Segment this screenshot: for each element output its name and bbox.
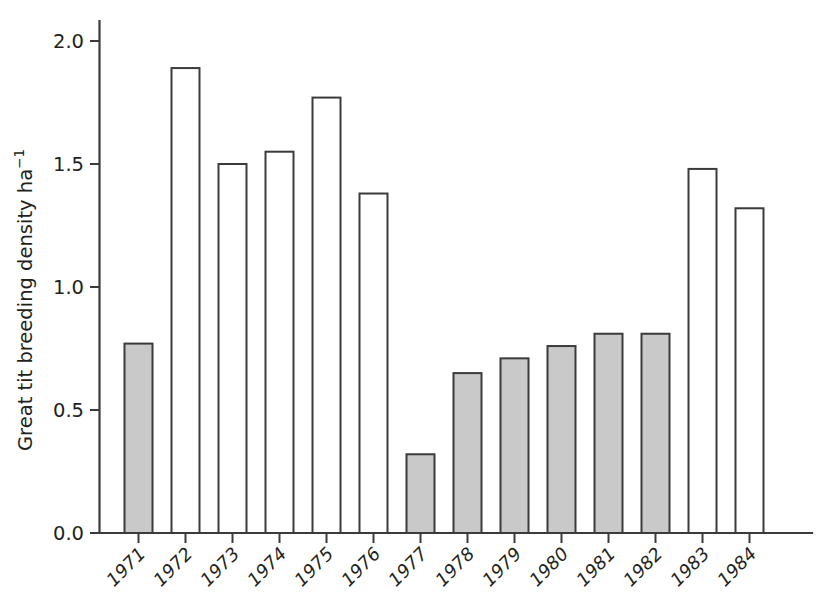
x-tick-label-1972: 1972 (149, 543, 196, 590)
bars-layer (125, 68, 764, 533)
x-tick-label-1974: 1974 (243, 543, 290, 590)
y-tick-label-3: 1.5 (53, 153, 84, 176)
x-tick-label-1976: 1976 (337, 543, 384, 590)
x-tick-label-1971: 1971 (102, 543, 149, 590)
y-tick-0: 0.0 (53, 522, 100, 545)
bar-chart: Great tit breeding density ha−1 0.0 0.5 … (0, 0, 829, 608)
x-tick-label-1981: 1981 (572, 543, 619, 590)
x-axis-ticks: 1971197219731974197519761977197819791980… (102, 533, 760, 590)
x-tick-label-1984: 1984 (713, 543, 760, 590)
y-axis-title: Great tit breeding density ha−1 (11, 149, 37, 451)
y-tick-label-4: 2.0 (53, 30, 84, 53)
y-tick-4: 2.0 (53, 30, 100, 53)
x-tick-label-1979: 1979 (478, 543, 525, 590)
bar-1971 (125, 344, 153, 533)
bar-1983 (689, 169, 717, 533)
x-tick-label-1977: 1977 (384, 543, 432, 591)
y-axis-title-exponent: −1 (11, 149, 27, 169)
bar-1981 (595, 334, 623, 533)
y-tick-label-2: 1.0 (53, 276, 84, 299)
bar-1977 (407, 454, 435, 533)
bar-1978 (454, 373, 482, 533)
x-tick-label-1975: 1975 (290, 543, 337, 590)
svg-text:Great tit breeding density ha−: Great tit breeding density ha−1 (11, 149, 37, 451)
y-tick-3: 1.5 (53, 153, 100, 176)
x-tick-label-1978: 1978 (431, 543, 478, 590)
bar-1972 (172, 68, 200, 533)
y-tick-label-0: 0.0 (53, 522, 84, 545)
bar-1976 (360, 194, 388, 533)
bar-1980 (548, 346, 576, 533)
y-tick-label-1: 0.5 (53, 399, 84, 422)
bar-1974 (266, 152, 294, 533)
bar-1975 (313, 98, 341, 533)
x-tick-label-1973: 1973 (196, 543, 243, 590)
chart-container: Great tit breeding density ha−1 0.0 0.5 … (0, 0, 829, 608)
bar-1973 (219, 164, 247, 533)
y-axis-title-text: Great tit breeding density ha (14, 169, 37, 451)
bar-1984 (736, 208, 764, 533)
x-tick-label-1982: 1982 (619, 543, 666, 590)
y-tick-1: 0.5 (53, 399, 100, 422)
x-tick-label-1983: 1983 (666, 543, 713, 590)
x-tick-label-1980: 1980 (525, 543, 572, 590)
y-tick-2: 1.0 (53, 276, 100, 299)
y-axis-ticks: 0.0 0.5 1.0 1.5 2.0 (53, 30, 100, 545)
bar-1982 (642, 334, 670, 533)
bar-1979 (501, 358, 529, 533)
